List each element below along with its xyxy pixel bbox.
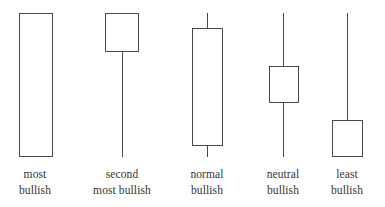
candlestick-4-label-line1: least <box>307 167 385 183</box>
candlestick-4-upper-wick <box>347 13 348 120</box>
candlestick-4-label: leastbullish <box>307 167 385 198</box>
candlestick-1-lower-wick <box>122 52 123 157</box>
candlestick-0-body <box>19 13 53 157</box>
candlestick-2-label: normalbullish <box>167 167 247 198</box>
candlestick-pattern-figure: mostbullishsecondmost bullishnormalbulli… <box>0 0 385 207</box>
candlestick-2-label-line2: bullish <box>167 183 247 199</box>
candlestick-0-label-line2: bullish <box>0 183 75 199</box>
candlestick-3-body <box>269 66 299 103</box>
candlestick-4-body <box>332 120 363 157</box>
candlestick-0: mostbullish <box>0 0 75 207</box>
candlestick-3-lower-wick <box>283 103 284 157</box>
candlestick-2-lower-wick <box>207 146 208 157</box>
candlestick-2-body <box>192 28 223 146</box>
candlestick-1: secondmost bullish <box>82 0 162 207</box>
candlestick-2: normalbullish <box>167 0 247 207</box>
candlestick-0-label-line1: most <box>0 167 75 183</box>
candlestick-1-label-line2: most bullish <box>82 183 162 199</box>
candlestick-1-label: secondmost bullish <box>82 167 162 198</box>
candlestick-1-body <box>105 13 139 52</box>
candlestick-2-label-line1: normal <box>167 167 247 183</box>
candlestick-3-upper-wick <box>283 13 284 66</box>
candlestick-0-label: mostbullish <box>0 167 75 198</box>
candlestick-1-label-line1: second <box>82 167 162 183</box>
candlestick-4: leastbullish <box>307 0 385 207</box>
candlestick-2-upper-wick <box>207 13 208 28</box>
candlestick-4-label-line2: bullish <box>307 183 385 199</box>
